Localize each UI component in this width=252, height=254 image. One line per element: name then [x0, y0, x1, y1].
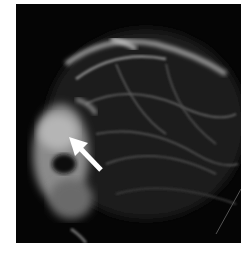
radiograph-image — [16, 4, 241, 243]
arrow-icon — [16, 4, 241, 243]
bottom-margin — [0, 244, 252, 254]
